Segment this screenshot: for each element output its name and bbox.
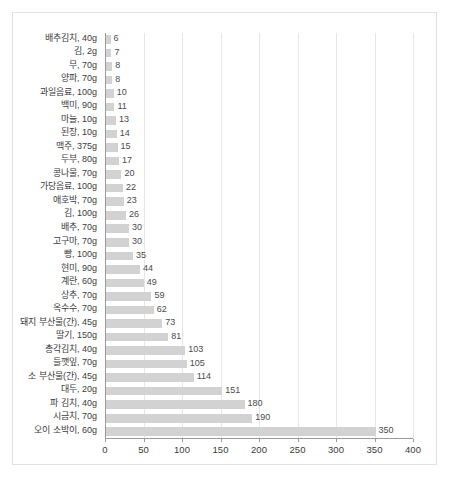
bar-row: 가당음료, 100g22 xyxy=(105,182,413,196)
category-label: 맥주, 375g xyxy=(0,140,97,152)
bar-value-label: 8 xyxy=(115,59,120,71)
bar[interactable] xyxy=(106,224,129,233)
bar[interactable] xyxy=(106,89,114,98)
bar-value-label: 6 xyxy=(114,32,119,44)
bar[interactable] xyxy=(106,360,187,369)
x-axis-tick-mark xyxy=(413,439,414,442)
category-label: 계란, 60g xyxy=(0,275,97,287)
bar[interactable] xyxy=(106,35,111,44)
bar-value-label: 62 xyxy=(157,303,167,315)
bar-value-label: 26 xyxy=(129,208,139,220)
bar-row: 된장, 10g14 xyxy=(105,128,413,142)
bar-row: 김, 100g26 xyxy=(105,209,413,223)
bar[interactable] xyxy=(106,400,245,409)
bar[interactable] xyxy=(106,143,118,152)
x-axis-tick-label: 150 xyxy=(213,444,229,455)
gridline xyxy=(413,33,414,439)
bar-value-label: 114 xyxy=(197,370,211,382)
bar-row: 파 김치, 40g180 xyxy=(105,398,413,412)
bar-row: 시금치, 70g190 xyxy=(105,412,413,426)
bar[interactable] xyxy=(106,427,376,436)
x-axis-tick-mark xyxy=(298,439,299,442)
bar-value-label: 30 xyxy=(132,235,142,247)
category-label: 상추, 70g xyxy=(0,289,97,301)
category-label: 양파, 70g xyxy=(0,72,97,84)
bar-row: 돼지 부산물(간), 45g73 xyxy=(105,317,413,331)
bar-value-label: 10 xyxy=(117,86,127,98)
x-axis-tick-mark xyxy=(221,439,222,442)
bar[interactable] xyxy=(106,211,126,220)
x-axis-line xyxy=(105,438,413,439)
bar[interactable] xyxy=(106,170,121,179)
category-label: 콩나물, 70g xyxy=(0,167,97,179)
category-label: 돼지 부산물(간), 45g xyxy=(0,316,97,328)
bar[interactable] xyxy=(106,306,154,315)
bar[interactable] xyxy=(106,373,194,382)
x-axis-tick-label: 300 xyxy=(328,444,344,455)
bar[interactable] xyxy=(106,184,123,193)
category-label: 과일음료, 100g xyxy=(0,86,97,98)
category-label: 오이 소박이, 60g xyxy=(0,424,97,436)
bar-value-label: 49 xyxy=(147,276,157,288)
bar-row: 배추, 70g30 xyxy=(105,222,413,236)
bar-row: 애호박, 70g23 xyxy=(105,195,413,209)
bar-row: 마늘, 10g13 xyxy=(105,114,413,128)
bar-row: 빵, 100g35 xyxy=(105,250,413,264)
bar[interactable] xyxy=(106,414,252,423)
bar[interactable] xyxy=(106,62,112,71)
bar[interactable] xyxy=(106,265,140,274)
bar[interactable] xyxy=(106,346,185,355)
x-axis-tick-label: 200 xyxy=(251,444,267,455)
bar-value-label: 59 xyxy=(154,289,164,301)
bar-value-label: 22 xyxy=(126,181,136,193)
bar-row: 계란, 60g49 xyxy=(105,277,413,291)
category-label: 현미, 90g xyxy=(0,262,97,274)
x-axis-tick-mark xyxy=(336,439,337,442)
bar[interactable] xyxy=(106,130,117,139)
bar[interactable] xyxy=(106,76,112,85)
category-label: 옥수수, 70g xyxy=(0,302,97,314)
bar-value-label: 103 xyxy=(188,343,203,355)
category-label: 김, 100g xyxy=(0,207,97,219)
x-axis-tick-mark xyxy=(375,439,376,442)
bar[interactable] xyxy=(106,103,114,112)
bar-row: 콩나물, 70g20 xyxy=(105,168,413,182)
category-label: 배추, 70g xyxy=(0,221,97,233)
bar-value-label: 15 xyxy=(121,140,131,152)
bar[interactable] xyxy=(106,238,129,247)
x-axis-tick-mark xyxy=(259,439,260,442)
bar-row: 두부, 80g17 xyxy=(105,155,413,169)
bar-row: 현미, 90g44 xyxy=(105,263,413,277)
bar[interactable] xyxy=(106,279,144,288)
bar-value-label: 44 xyxy=(143,262,153,274)
x-axis-tick-label: 350 xyxy=(367,444,383,455)
x-axis-tick-label: 250 xyxy=(290,444,306,455)
category-label: 김, 2g xyxy=(0,45,97,57)
bar[interactable] xyxy=(106,157,119,166)
chart-frame: 배추김치, 40g6김, 2g7무, 70g8양파, 70g8과일음료, 100… xyxy=(12,12,437,465)
category-label: 총각김치, 40g xyxy=(0,343,97,355)
bar[interactable] xyxy=(106,116,116,125)
bar-value-label: 180 xyxy=(248,397,263,409)
category-label: 소 부산물(간), 45g xyxy=(0,370,97,382)
bar-row: 양파, 70g8 xyxy=(105,74,413,88)
bar[interactable] xyxy=(106,197,124,206)
bar[interactable] xyxy=(106,333,168,342)
category-label: 애호박, 70g xyxy=(0,194,97,206)
bar-row: 소 부산물(간), 45g114 xyxy=(105,371,413,385)
category-label: 파 김치, 40g xyxy=(0,397,97,409)
x-axis-tick-label: 400 xyxy=(405,444,421,455)
category-label: 고구마, 70g xyxy=(0,235,97,247)
bar[interactable] xyxy=(106,387,222,396)
category-label: 된장, 10g xyxy=(0,126,97,138)
bar[interactable] xyxy=(106,319,162,328)
bar[interactable] xyxy=(106,292,151,301)
bar-rows: 배추김치, 40g6김, 2g7무, 70g8양파, 70g8과일음료, 100… xyxy=(105,33,413,439)
bar-row: 총각김치, 40g103 xyxy=(105,344,413,358)
category-label: 대두, 20g xyxy=(0,383,97,395)
category-label: 가당음료, 100g xyxy=(0,180,97,192)
bar[interactable] xyxy=(106,252,133,261)
bar-row: 상추, 70g59 xyxy=(105,290,413,304)
bar[interactable] xyxy=(106,49,111,58)
bar-row: 고구마, 70g30 xyxy=(105,236,413,250)
